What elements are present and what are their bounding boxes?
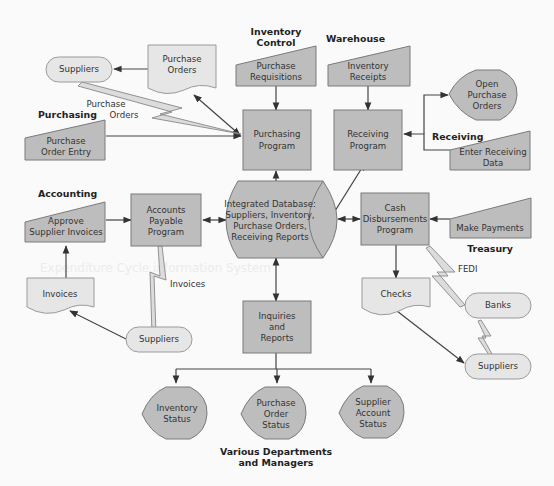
svg-text:Order Entry: Order Entry [41, 147, 91, 157]
svg-text:Supplier: Supplier [355, 397, 391, 407]
svg-text:Suppliers: Suppliers [478, 361, 518, 371]
expenditure-cycle-diagram: Expenditure Cycle information System [0, 0, 554, 486]
suppliers-top-node[interactable]: Suppliers [46, 57, 112, 82]
svg-text:Program: Program [259, 141, 295, 151]
svg-text:Order: Order [264, 409, 289, 419]
group-warehouse: Warehouse [326, 33, 385, 44]
svg-text:Invoices: Invoices [42, 289, 78, 299]
svg-text:Control: Control [257, 37, 296, 48]
cash-disbursements-program-process[interactable]: Cash Disbursements Program [361, 193, 429, 245]
svg-text:Purchase Orders,: Purchase Orders, [233, 221, 306, 231]
inquiries-reports-process[interactable]: Inquiries and Reports [243, 301, 311, 353]
svg-text:Program: Program [350, 141, 386, 151]
svg-text:Status: Status [262, 420, 290, 430]
svg-text:and Managers: and Managers [239, 457, 314, 468]
purchasing-program-process[interactable]: Purchasing Program [243, 110, 311, 170]
group-purchasing: Purchasing [38, 109, 97, 120]
svg-text:Program: Program [148, 227, 184, 237]
purchase-order-status-display[interactable]: Purchase Order Status [241, 387, 306, 439]
suppliers-left-node[interactable]: Suppliers [126, 327, 192, 352]
svg-text:Disbursements: Disbursements [363, 214, 428, 224]
svg-text:Receiving Reports: Receiving Reports [231, 232, 309, 242]
supplier-account-status-display[interactable]: Supplier Account Status [339, 386, 404, 438]
suppliers-right-node[interactable]: Suppliers [465, 354, 531, 379]
svg-text:Inquiries: Inquiries [259, 311, 296, 321]
receiving-program-process[interactable]: Receiving Program [334, 110, 402, 170]
svg-text:Integrated Database:: Integrated Database: [224, 199, 316, 209]
svg-text:Account: Account [356, 408, 391, 418]
svg-text:Make Payments: Make Payments [456, 223, 524, 233]
svg-text:Program: Program [377, 225, 413, 235]
svg-text:Payable: Payable [149, 216, 183, 226]
svg-text:Orders: Orders [473, 101, 502, 111]
make-payments-input[interactable]: Make Payments [450, 198, 531, 238]
fedi-telecom-link [426, 246, 465, 307]
svg-text:Checks: Checks [381, 289, 412, 299]
checks-document[interactable]: Checks [362, 278, 430, 315]
banks-suppliers-link [478, 320, 492, 355]
inventory-status-display[interactable]: Inventory Status [142, 387, 207, 439]
svg-text:Banks: Banks [485, 300, 512, 310]
invoices-document[interactable]: Invoices [27, 278, 94, 313]
svg-text:Approve: Approve [48, 216, 84, 226]
svg-text:Purchase: Purchase [256, 61, 295, 71]
fedi-link-label: FEDI [458, 264, 478, 274]
approve-supplier-invoices-input[interactable]: Approve Supplier Invoices [25, 202, 105, 242]
accounts-payable-program-process[interactable]: Accounts Payable Program [131, 194, 201, 246]
svg-text:Suppliers: Suppliers [139, 334, 179, 344]
svg-text:Reports: Reports [261, 333, 294, 343]
svg-text:Suppliers: Suppliers [59, 64, 99, 74]
svg-text:Status: Status [163, 414, 191, 424]
svg-text:Suppliers, Inventory,: Suppliers, Inventory, [225, 210, 314, 220]
background-title: Expenditure Cycle information System [40, 261, 271, 275]
group-receiving: Receiving [432, 131, 483, 142]
svg-text:Cash: Cash [384, 203, 405, 213]
svg-text:Open: Open [476, 79, 499, 89]
svg-text:Inventory: Inventory [156, 403, 197, 413]
svg-text:Supplier Invoices: Supplier Invoices [29, 227, 103, 237]
svg-text:Receipts: Receipts [350, 72, 387, 82]
svg-text:Data: Data [483, 158, 504, 168]
open-purchase-orders-display[interactable]: Open Purchase Orders [449, 70, 517, 120]
group-inventory-control: Inventory [251, 26, 302, 37]
svg-text:Enter Receiving: Enter Receiving [459, 147, 526, 157]
svg-text:and: and [269, 322, 285, 332]
svg-text:Receiving: Receiving [347, 129, 389, 139]
svg-text:Purchase: Purchase [46, 136, 85, 146]
svg-text:Orders: Orders [168, 65, 197, 75]
purchase-order-entry-input[interactable]: Purchase Order Entry [25, 120, 105, 160]
svg-text:Orders: Orders [110, 110, 139, 120]
invoices-link-label: Invoices [170, 279, 206, 289]
inventory-receipts-input[interactable]: Inventory Receipts [328, 46, 410, 86]
integrated-database-storage[interactable]: Integrated Database: Suppliers, Inventor… [224, 181, 337, 258]
svg-text:Purchase: Purchase [256, 398, 295, 408]
purchase-requisitions-input[interactable]: Purchase Requisitions [236, 46, 316, 86]
svg-text:Purchasing: Purchasing [253, 129, 300, 139]
group-various-departments: Various Departments [220, 446, 332, 457]
svg-text:Accounts: Accounts [146, 205, 186, 215]
svg-text:Inventory: Inventory [347, 61, 388, 71]
banks-node[interactable]: Banks [465, 293, 531, 318]
purchase-orders-document[interactable]: Purchase Orders [148, 45, 216, 94]
svg-text:Status: Status [359, 419, 387, 429]
svg-text:Requisitions: Requisitions [250, 72, 302, 82]
invoices-telecom-link [150, 246, 166, 334]
group-accounting: Accounting [38, 188, 97, 199]
svg-text:Purchase: Purchase [162, 54, 201, 64]
svg-text:Purchase: Purchase [467, 90, 506, 100]
group-treasury: Treasury [467, 243, 513, 254]
purchase-orders-link-label: Purchase [86, 99, 125, 109]
